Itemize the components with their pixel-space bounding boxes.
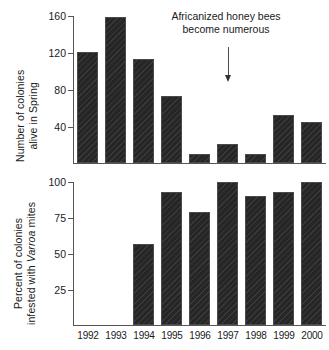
x-ticklabel-2000: 2000 [298,330,326,341]
bar-slot-1994 [130,16,158,163]
bar-slot-1993 [102,182,130,325]
bar-1994 [133,59,154,163]
bottom-y-ticklabel-75: 75 [54,212,66,224]
bottom-panel-y-axis-label: Percent of colonies infested with Varroa… [12,202,37,325]
bar-1993 [105,17,126,163]
bar-1996 [189,154,210,163]
bar-slot-1999 [270,16,298,163]
bottom-y-axis-label-line1: Percent of colonies [12,202,25,325]
bottom-panel-plot-area: 100 75 50 25 [73,182,326,326]
bar-1995 [161,96,182,163]
down-arrow-icon [224,47,233,83]
top-panel-y-axis-label: Number of colonies alive in Spring [14,70,39,162]
arrow-shaft [228,47,229,77]
x-ticklabel-1999: 1999 [270,330,298,341]
bar-slot-2000 [298,182,326,325]
bar-slot-1999 [270,182,298,325]
bar-slot-1998 [242,16,270,163]
bottom-y-axis-label-line2-post: mites [25,202,37,231]
bar-slot-1996 [186,16,214,163]
bar-slot-1996 [186,182,214,325]
bar-1998 [245,196,266,325]
x-ticklabel-1998: 1998 [242,330,270,341]
bottom-panel-x-axis-line [73,325,326,326]
x-axis-tick-labels: 199219931994199519961997199819992000 [74,330,326,346]
top-y-ticklabel-40: 40 [54,121,66,133]
bar-slot-1994 [130,182,158,325]
bar-slot-1997 [214,16,242,163]
top-y-axis-label-line2: alive in Spring [27,70,40,162]
top-y-tick-40 [68,127,73,128]
bar-1999 [273,192,294,325]
bottom-y-tick-50 [68,254,73,255]
top-y-ticklabel-120: 120 [48,47,66,59]
bottom-y-axis-label-genus: Varroa [25,231,37,263]
bottom-y-ticklabel-50: 50 [54,248,66,260]
bar-1995 [161,192,182,325]
bar-1992 [77,52,98,163]
bar-slot-1995 [158,16,186,163]
annotation-line1: Africanized honey bees [147,10,305,23]
bar-1998 [245,154,266,163]
bottom-y-axis-label-line2: infested with Varroa mites [25,202,38,325]
top-y-axis-label-line1: Number of colonies [14,70,27,162]
bar-1996 [189,212,210,325]
bar-slot-1998 [242,182,270,325]
bottom-y-ticklabel-25: 25 [54,284,66,296]
bottom-y-tick-75 [68,218,73,219]
x-ticklabel-1993: 1993 [102,330,130,341]
top-panel-plot-area: 160 120 80 40 [73,16,326,164]
bar-slot-1993 [102,16,130,163]
bar-1994 [133,244,154,326]
top-panel-x-axis-line [73,163,326,164]
bottom-y-axis-label-line2-pre: infested with [25,262,37,325]
bar-slot-1992 [74,16,102,163]
x-ticklabel-1996: 1996 [186,330,214,341]
bottom-y-tick-100 [68,182,73,183]
bar-slot-1992 [74,182,102,325]
bar-2000 [301,182,322,325]
bee-colony-figure: Number of colonies alive in Spring 160 1… [0,0,329,350]
bar-1997 [217,144,238,163]
x-ticklabel-1994: 1994 [130,330,158,341]
top-y-tick-160 [68,16,73,17]
x-ticklabel-1997: 1997 [214,330,242,341]
top-panel-bars [74,16,326,163]
bar-1997 [217,182,238,325]
top-y-tick-120 [68,53,73,54]
x-ticklabel-1992: 1992 [74,330,102,341]
arrow-head [225,75,231,82]
annotation-text: Africanized honey bees become numerous [147,10,305,36]
top-y-ticklabel-80: 80 [54,84,66,96]
bar-1999 [273,115,294,163]
bar-2000 [301,122,322,163]
bar-slot-1997 [214,182,242,325]
bottom-y-tick-25 [68,290,73,291]
top-y-tick-80 [68,90,73,91]
bar-slot-2000 [298,16,326,163]
bottom-panel-bars [74,182,326,325]
annotation-line2: become numerous [147,23,305,36]
bottom-y-ticklabel-100: 100 [48,176,66,188]
x-ticklabel-1995: 1995 [158,330,186,341]
bar-slot-1995 [158,182,186,325]
top-y-ticklabel-160: 160 [48,10,66,22]
